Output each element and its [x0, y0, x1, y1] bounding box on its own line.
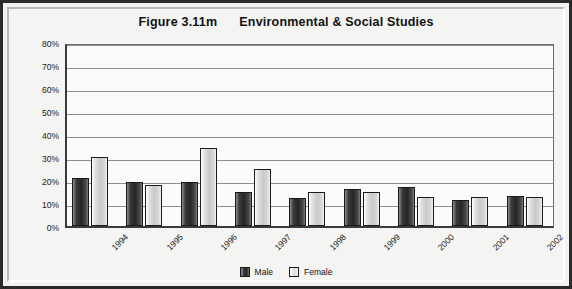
- bar-female-1995: [145, 185, 162, 226]
- bar-male-2002: [507, 196, 524, 226]
- legend-label-male: Male: [255, 267, 273, 277]
- bar-female-1994: [91, 157, 108, 226]
- bar-male-1999: [344, 189, 361, 226]
- x-axis-tick-label: 1994: [110, 232, 130, 252]
- bar-group: [176, 45, 230, 226]
- x-axis-tick-label: 2002: [544, 232, 564, 252]
- bar-group: [447, 45, 501, 226]
- x-axis-tick-label: 1996: [218, 232, 238, 252]
- y-axis-tick-label: 50%: [42, 108, 59, 118]
- bar-male-1996: [181, 182, 198, 226]
- y-axis-tick-label: 0%: [47, 223, 59, 233]
- legend-swatch-female: [289, 267, 299, 277]
- y-axis-tick-label: 40%: [42, 131, 59, 141]
- bar-group: [393, 45, 447, 226]
- bar-male-1995: [126, 182, 143, 226]
- chart-legend: MaleFemale: [9, 267, 563, 277]
- bar-male-2000: [398, 187, 415, 226]
- bar-female-1998: [308, 192, 325, 227]
- y-axis-labels: 0%10%20%30%40%50%60%70%80%: [23, 44, 63, 228]
- bar-group: [339, 45, 393, 226]
- bar-group: [67, 45, 121, 226]
- figure-frame: Figure 3.11m Environmental & Social Stud…: [0, 0, 572, 289]
- legend-item-male: Male: [240, 267, 273, 277]
- bar-group: [284, 45, 338, 226]
- y-axis-tick-label: 30%: [42, 154, 59, 164]
- x-axis-tick-label: 1997: [273, 232, 293, 252]
- x-axis-tick-label: 1998: [327, 232, 347, 252]
- x-axis-tick-label: 1999: [381, 232, 401, 252]
- x-axis-tick-label: 1995: [164, 232, 184, 252]
- bar-male-1998: [289, 198, 306, 226]
- legend-label-female: Female: [304, 267, 332, 277]
- bar-female-1997: [254, 169, 271, 227]
- x-axis-labels: 199419951996199719981999200020012002: [65, 230, 554, 270]
- bar-female-2001: [471, 197, 488, 226]
- bar-male-1997: [235, 192, 252, 227]
- chart-title: Figure 3.11m Environmental & Social Stud…: [9, 15, 563, 29]
- legend-item-female: Female: [289, 267, 332, 277]
- bar-female-1996: [200, 148, 217, 226]
- y-axis-tick-label: 70%: [42, 62, 59, 72]
- bar-female-2002: [526, 197, 543, 226]
- figure-inner-bevel: Figure 3.11m Environmental & Social Stud…: [7, 7, 565, 282]
- y-axis-tick-label: 20%: [42, 177, 59, 187]
- bar-group: [230, 45, 284, 226]
- bar-female-2000: [417, 197, 434, 226]
- y-axis-tick-label: 10%: [42, 200, 59, 210]
- bar-male-2001: [452, 200, 469, 226]
- legend-swatch-male: [240, 267, 250, 277]
- y-axis-tick-label: 80%: [42, 39, 59, 49]
- y-axis-tick-label: 60%: [42, 85, 59, 95]
- bar-group: [121, 45, 175, 226]
- bar-female-1999: [363, 192, 380, 227]
- x-axis-tick-label: 2000: [436, 232, 456, 252]
- bars-layer: [67, 45, 553, 226]
- x-axis-tick-label: 2001: [490, 232, 510, 252]
- bar-group: [502, 45, 556, 226]
- plot-area: [65, 44, 554, 228]
- bar-male-1994: [72, 178, 89, 226]
